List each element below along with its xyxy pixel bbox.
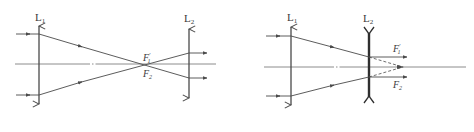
refracted-ray-top — [80, 46, 189, 78]
label-l1: L1 — [35, 11, 46, 25]
refracted-ray-bottom — [80, 53, 189, 82]
focus-arrowhead — [397, 65, 404, 69]
label-l2: L2 — [363, 12, 374, 26]
refracted-ray-bottom-arrow — [291, 85, 334, 96]
label-l1: L1 — [287, 11, 298, 25]
refracted-ray-bottom-arrow — [39, 82, 82, 95]
lens-l2-diverging — [364, 27, 374, 103]
refracted-ray-bottom — [332, 77, 369, 86]
label-f2: F2 — [392, 79, 402, 91]
refracted-ray-top — [332, 47, 369, 57]
left-diagram: L1 L2 F′1 F2 — [15, 11, 216, 104]
refracted-ray-top-arrow — [291, 36, 334, 48]
label-f1-prime: F′1 — [392, 43, 401, 55]
label-f2: F2 — [142, 68, 152, 80]
label-l2: L2 — [184, 12, 195, 26]
right-diagram: L1 L2 F′1 F2 — [264, 11, 466, 105]
refracted-ray-top-arrow — [39, 34, 82, 47]
label-f1-prime: F′1 — [142, 52, 151, 64]
optics-figure: L1 L2 F′1 F2 L1 L — [0, 0, 474, 132]
